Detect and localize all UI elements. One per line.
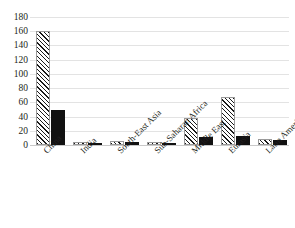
axis-baseline xyxy=(30,145,289,146)
bar-group xyxy=(147,17,176,145)
bar-series-2-middle-east xyxy=(199,137,213,145)
y-tick-label: 40 xyxy=(2,113,28,123)
bar-group xyxy=(73,17,102,145)
bar-series-2-india xyxy=(88,143,102,145)
bar-series-1-south-east-asia xyxy=(110,141,124,145)
bar-group xyxy=(221,17,250,145)
y-tick-label: 140 xyxy=(2,41,28,51)
y-tick-label: 120 xyxy=(2,56,28,66)
bar-series-1-middle-east xyxy=(184,118,198,145)
bar-series-2-china xyxy=(51,110,65,145)
y-tick-label: 60 xyxy=(2,98,28,108)
plot-area xyxy=(30,17,289,145)
bar-series-1-latin-america xyxy=(258,139,272,145)
bar-group xyxy=(110,17,139,145)
bar-series-2-eurasia xyxy=(236,136,250,145)
bar-group xyxy=(258,17,287,145)
y-tick-label: 80 xyxy=(2,84,28,94)
bar-series-2-latin-america xyxy=(273,140,287,145)
y-tick-label: 0 xyxy=(2,141,28,151)
y-tick-label: 160 xyxy=(2,27,28,37)
y-tick-label: 180 xyxy=(2,13,28,23)
bar-series-1-india xyxy=(73,142,87,145)
bar-series-2-south-east-asia xyxy=(125,142,139,145)
bar-group xyxy=(184,17,213,145)
y-tick-label: 20 xyxy=(2,127,28,137)
bar-chart: 180 160 140 120 100 80 60 40 20 0 ChinaI… xyxy=(0,0,295,228)
bar-group xyxy=(36,17,65,145)
bar-series-1-china xyxy=(36,31,50,145)
bar-series-1-eurasia xyxy=(221,97,235,145)
bar-series-2-sub-saharan-africa xyxy=(162,143,176,145)
bar-series-1-sub-saharan-africa xyxy=(147,142,161,145)
y-tick-label: 100 xyxy=(2,70,28,80)
